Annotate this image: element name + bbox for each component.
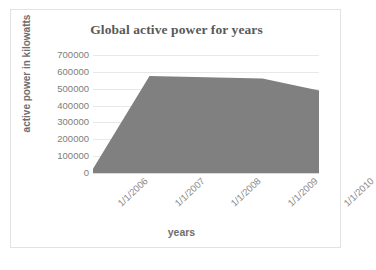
- y-tick-label: 700000: [57, 50, 89, 60]
- x-tick-label: 1/1/2006: [116, 176, 150, 208]
- area-polygon: [93, 76, 319, 173]
- y-axis-title: active power in kilowatts: [21, 10, 32, 138]
- y-tick-label: 300000: [57, 118, 89, 128]
- y-tick-label: 0: [84, 168, 89, 178]
- gridline: [93, 173, 319, 174]
- x-axis-tick-labels: 1/1/20061/1/20071/1/20081/1/20091/1/2010: [93, 176, 319, 226]
- y-tick-label: 200000: [57, 135, 89, 145]
- x-axis-title: years: [11, 226, 342, 238]
- chart-title: Global active power for years: [11, 22, 342, 38]
- chart-container: Global active power for years active pow…: [10, 9, 341, 248]
- area-series: [93, 55, 319, 173]
- y-axis-tick-labels: 0100000200000300000400000500000600000700…: [31, 55, 89, 173]
- y-tick-label: 500000: [57, 84, 89, 94]
- x-tick-label: 1/1/2009: [285, 176, 319, 208]
- x-tick-label: 1/1/2010: [342, 176, 376, 208]
- y-tick-label: 600000: [57, 67, 89, 77]
- y-tick-label: 400000: [57, 101, 89, 111]
- x-tick-label: 1/1/2007: [172, 176, 206, 208]
- y-tick-label: 100000: [57, 151, 89, 161]
- plot-area: [93, 55, 319, 173]
- x-tick-label: 1/1/2008: [229, 176, 263, 208]
